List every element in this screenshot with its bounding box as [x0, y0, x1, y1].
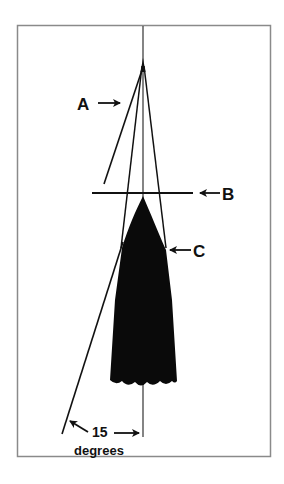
label-a: A [77, 95, 89, 114]
angle-unit: degrees [74, 443, 124, 458]
label-c: C [193, 242, 205, 261]
diagram: A B C 15 degrees [0, 0, 284, 484]
angle-value: 15 [92, 424, 108, 440]
angle-arrow-left [70, 421, 88, 432]
line-a [104, 70, 142, 184]
caption-strip-cropped [0, 474, 284, 484]
label-b: B [222, 185, 234, 204]
fin-shape-c [110, 196, 177, 386]
